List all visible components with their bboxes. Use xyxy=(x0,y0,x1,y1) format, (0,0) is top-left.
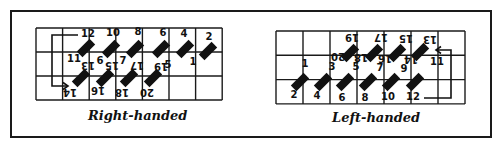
stitch-number: 12 xyxy=(406,91,420,102)
stitch-bar xyxy=(406,73,424,91)
stitch-number: 8 xyxy=(362,92,369,103)
knitting-diagram: 121086421197511315171914161820 191715132… xyxy=(0,0,504,150)
stitch-number: 14 xyxy=(63,87,77,98)
stitch-bar xyxy=(152,40,170,58)
stitch-number: 2 xyxy=(291,89,298,100)
stitch-number: 19 xyxy=(345,32,359,43)
stitch-number: 4 xyxy=(181,28,188,39)
stitch-numbers: 1917151320181614111357924681012 xyxy=(291,32,444,103)
stitch-number: 17 xyxy=(130,60,144,71)
stitch-bar xyxy=(359,73,377,91)
right-handed-panel: 121086421197511315171914161820 xyxy=(36,26,222,100)
stitch-number: 15 xyxy=(399,33,413,44)
stitch-number: 9 xyxy=(401,63,408,74)
stitch-number: 18 xyxy=(115,87,129,98)
caption-right-handed: Right-handed xyxy=(88,108,187,123)
stitch-number: 3 xyxy=(329,61,336,72)
stitch-number: 6 xyxy=(160,27,167,38)
stitch-number: 7 xyxy=(120,55,127,66)
stitch-number: 15 xyxy=(105,60,119,71)
left-handed-panel: 1917151320181614111357924681012 xyxy=(276,31,465,104)
stitch-number: 6 xyxy=(339,92,346,103)
stitch-number: 4 xyxy=(314,90,321,101)
stitch-bars xyxy=(291,43,429,91)
stitch-number: 16 xyxy=(91,85,105,96)
stitch-number: 7 xyxy=(377,62,384,73)
stitch-numbers: 121086421197511315171914161820 xyxy=(63,26,213,98)
stitch-bar xyxy=(336,73,354,91)
stitch-number: 13 xyxy=(423,34,437,45)
stitch-number: 5 xyxy=(353,61,360,72)
stitch-number: 11 xyxy=(67,53,81,64)
stitch-number: 13 xyxy=(81,60,95,71)
stitch-number: 17 xyxy=(374,32,388,43)
stitch-number: 10 xyxy=(106,27,120,38)
stitch-number: 8 xyxy=(135,26,142,37)
stitch-number: 11 xyxy=(430,56,444,67)
stitch-number: 1 xyxy=(302,58,309,69)
stitch-number: 20 xyxy=(140,87,154,98)
stitch-number: 2 xyxy=(206,31,213,42)
caption-left-handed: Left-handed xyxy=(332,110,420,125)
stitch-number: 10 xyxy=(381,91,395,102)
stitch-bar xyxy=(126,40,144,58)
stitch-bar xyxy=(102,40,120,58)
stitch-number: 9 xyxy=(96,54,103,65)
stitch-number: 1 xyxy=(190,56,197,67)
stitch-number: 12 xyxy=(81,28,95,39)
stitch-bar xyxy=(199,42,217,60)
stitch-number: 19 xyxy=(154,61,168,72)
